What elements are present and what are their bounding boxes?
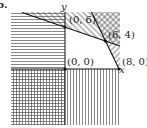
label-6-4: (6, 4) bbox=[108, 29, 135, 40]
vertex-origin bbox=[63, 67, 66, 70]
label-origin: (0, 0) bbox=[67, 56, 94, 67]
vertex-6-4 bbox=[104, 39, 107, 42]
vertex-0-6 bbox=[63, 25, 66, 28]
y-axis-label: y bbox=[60, 1, 67, 12]
label-8-0: (8, 0) bbox=[122, 56, 147, 67]
part-label: b. bbox=[0, 0, 7, 10]
feasible-region-diagram: b. y x (0, 6) (6, 4) (0, 0) (8, 0) bbox=[0, 0, 147, 128]
label-0-6: (0, 6) bbox=[69, 14, 96, 25]
